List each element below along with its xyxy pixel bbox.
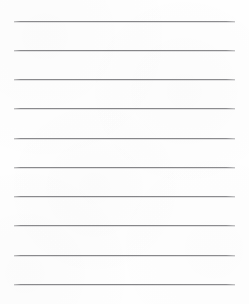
rule-line-10 — [14, 284, 235, 285]
rule-line-5 — [14, 138, 235, 139]
rule-line-1 — [14, 21, 235, 22]
rule-line-6 — [14, 167, 235, 168]
rule-line-7 — [14, 196, 235, 197]
rule-line-8 — [14, 225, 235, 226]
rule-line-4 — [14, 108, 235, 109]
rule-line-3 — [14, 79, 235, 80]
lined-paper-page — [0, 0, 249, 304]
rule-line-9 — [14, 255, 235, 256]
rule-line-2 — [14, 50, 235, 51]
